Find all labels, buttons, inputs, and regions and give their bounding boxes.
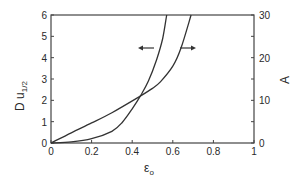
x-axis-title: εo (144, 161, 154, 177)
y-axis-title-main: D u (13, 92, 27, 111)
x-tick-label: 0.4 (125, 146, 139, 157)
y-right-axis-title: A (278, 76, 292, 84)
y-right-tick-label: 0 (259, 138, 265, 149)
y-right-tick-label: 30 (259, 10, 271, 21)
x-axis-title-sub: o (149, 168, 154, 177)
y-tick-label: 2 (41, 95, 47, 106)
x-tick-label: 1 (251, 146, 257, 157)
y-tick-label: 0 (41, 138, 47, 149)
x-tick-label: 0.8 (206, 146, 220, 157)
x-tick-label: 0 (48, 146, 54, 157)
y-right-tick-label: 20 (259, 53, 271, 64)
y-tick-label: 1 (41, 117, 47, 128)
curves (51, 15, 191, 143)
x-tick-label: 0.2 (85, 146, 99, 157)
x-tick-label: 0.6 (166, 146, 180, 157)
arrow-right-icon (191, 46, 196, 51)
axis-arrows (138, 46, 196, 51)
y-axis-title-sub: 1/2 (20, 81, 29, 93)
y-tick-label: 4 (41, 53, 47, 64)
y-right-tick-label: 10 (259, 95, 271, 106)
arrow-left-icon (138, 46, 143, 51)
curve-du (51, 15, 167, 143)
axis-ticks: 00.20.40.60.8101234560102030 (41, 10, 270, 157)
plot-frame (51, 15, 254, 143)
y-tick-label: 6 (41, 10, 47, 21)
chart: 00.20.40.60.8101234560102030 D u1/2 A εo (0, 0, 296, 184)
y-axis-title: D u1/2 (13, 81, 29, 111)
plot-border (51, 15, 254, 143)
y-tick-label: 3 (41, 74, 47, 85)
y-tick-label: 5 (41, 31, 47, 42)
